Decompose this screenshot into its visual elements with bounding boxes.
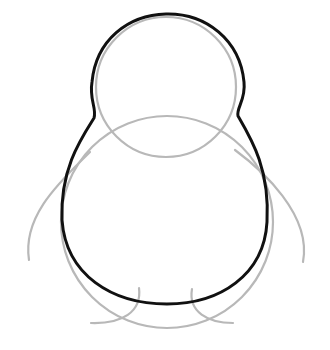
background bbox=[0, 0, 330, 350]
penguin-sketch-canvas bbox=[0, 0, 330, 350]
